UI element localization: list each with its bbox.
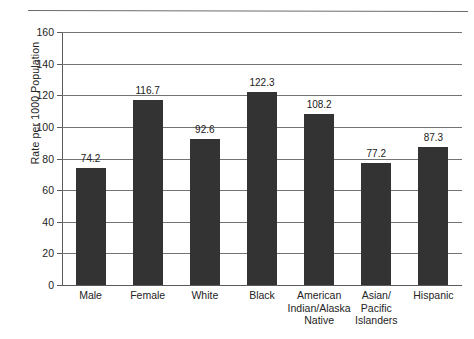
y-tick-mark-160	[57, 32, 62, 33]
bar[interactable]	[361, 163, 391, 285]
bar[interactable]	[247, 92, 277, 285]
bar-value-label: 92.6	[175, 125, 235, 135]
y-tick-label-140: 140	[36, 58, 54, 69]
y-tick-mark-40	[57, 222, 62, 223]
y-tick-mark-120	[57, 95, 62, 96]
y-tick-label-40: 40	[42, 217, 54, 228]
bar[interactable]	[76, 168, 106, 285]
y-tick-label-100: 100	[36, 122, 54, 133]
bar[interactable]	[418, 147, 448, 285]
y-tick-mark-140	[57, 64, 62, 65]
plot-area: 020406080100120140160 74.2116.792.6122.3…	[62, 32, 462, 285]
bar-value-label: 116.7	[118, 86, 178, 96]
y-tick-mark-0	[57, 285, 62, 286]
y-tick-label-160: 160	[36, 27, 54, 38]
bar-value-label: 77.2	[346, 149, 406, 159]
bar-value-label: 74.2	[61, 154, 121, 164]
x-axis-label: Hispanic	[388, 289, 474, 302]
y-tick-label-80: 80	[42, 153, 54, 164]
bar-value-label: 87.3	[403, 133, 463, 143]
y-tick-mark-20	[57, 253, 62, 254]
gridline-160	[62, 32, 462, 33]
bar-value-label: 108.2	[289, 100, 349, 110]
y-tick-label-20: 20	[42, 248, 54, 259]
bar-chart-figure: Rate per 1000 Population 020406080100120…	[0, 0, 474, 339]
bar[interactable]	[133, 100, 163, 285]
y-tick-label-120: 120	[36, 90, 54, 101]
y-tick-label-60: 60	[42, 185, 54, 196]
bar[interactable]	[190, 139, 220, 285]
y-tick-mark-60	[57, 190, 62, 191]
gridline-140	[62, 64, 462, 65]
bar[interactable]	[304, 114, 334, 285]
y-tick-mark-100	[57, 127, 62, 128]
bar-value-label: 122.3	[232, 78, 292, 88]
gridline-0	[62, 285, 462, 286]
